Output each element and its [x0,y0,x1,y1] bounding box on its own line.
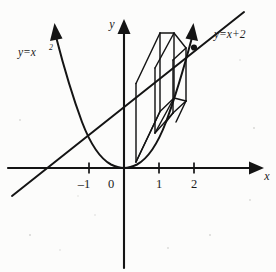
line-label-text: y=x+2 [213,28,246,41]
y-axis-arrowhead [118,19,131,34]
slice-base-outline [136,33,186,162]
cross-section-volume-figure: –1 0 1 2 x y y=x 2 y=x+2 [0,0,276,272]
parabola-label: y=x 2 [17,43,53,59]
tick-label-minus-1: –1 [77,177,91,191]
parabola-label-text: y=x [17,46,37,59]
y-axis-label: y [108,17,115,31]
x-axis-arrowhead [249,162,264,175]
x-axis-label: x [263,169,270,183]
parabola-right-arrowhead [186,23,199,41]
tick-label-2: 2 [191,177,197,191]
parabola-left-arrowhead [50,23,63,41]
cross-section-slice-2 [155,33,174,133]
figure-container: –1 0 1 2 x y y=x 2 y=x+2 [0,0,276,272]
paper-texture [19,59,255,251]
intersection-point-2-4 [191,44,197,50]
cross-section-slices [136,33,186,162]
tick-label-origin: 0 [108,177,114,191]
line-label: y=x+2 [213,28,246,41]
tick-label-1: 1 [156,177,162,191]
y-axis [118,19,131,268]
parabola-label-exponent: 2 [49,43,53,52]
